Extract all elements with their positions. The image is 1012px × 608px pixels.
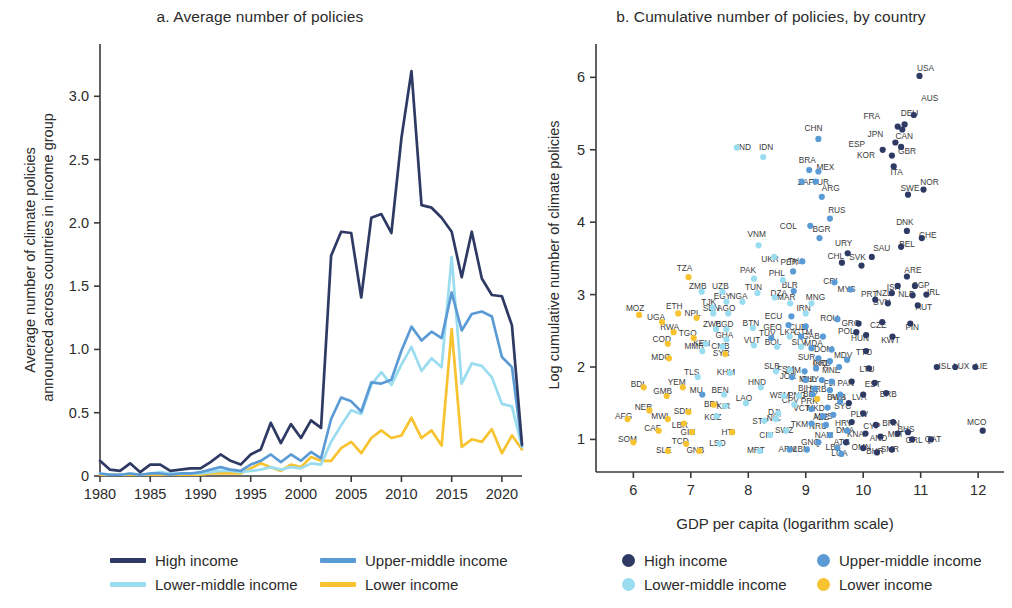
scatter-point	[869, 254, 875, 260]
scatter-point	[934, 364, 940, 370]
scatter-point	[810, 391, 816, 397]
country-label: SWE	[901, 183, 920, 193]
scatter-point	[803, 377, 809, 383]
scatter-point	[804, 447, 810, 453]
scatter-point	[723, 326, 729, 332]
country-label: SAU	[873, 243, 890, 253]
scatter-point	[787, 367, 793, 373]
legend-label: Lower income	[839, 577, 932, 592]
panel-a-y-tick-label: 0	[81, 468, 89, 484]
panel-a-x-tick-label: 2005	[335, 486, 367, 502]
panel-b-x-tick-label: 10	[855, 482, 871, 498]
scatter-point	[907, 321, 913, 327]
scatter-point	[710, 310, 716, 316]
legend-item-high-income: High income	[622, 553, 817, 568]
scatter-point	[739, 299, 745, 305]
scatter-point	[772, 294, 778, 300]
scatter-point	[827, 358, 833, 364]
scatter-point	[815, 168, 821, 174]
scatter-point	[788, 313, 794, 319]
scatter-point	[699, 289, 705, 295]
scatter-point	[874, 449, 880, 455]
scatter-point	[819, 194, 825, 200]
country-label: BRA	[799, 155, 817, 165]
scatter-point	[889, 447, 895, 453]
scatter-point	[787, 334, 793, 340]
panel-a-series-line	[100, 292, 522, 474]
scatter-point	[808, 300, 814, 306]
country-label: DNK	[896, 217, 914, 227]
scatter-point	[829, 378, 835, 384]
scatter-point	[803, 323, 809, 329]
scatter-point	[641, 384, 647, 390]
panel-b-x-tick-label: 11	[913, 482, 928, 498]
panel-a-series-line	[100, 257, 522, 475]
scatter-point	[814, 396, 820, 402]
legend-row: High incomeUpper-middle income	[622, 553, 1012, 568]
country-label: TZA	[677, 263, 693, 273]
legend-dot-swatch	[622, 578, 635, 591]
scatter-point	[856, 321, 862, 327]
scatter-point	[761, 418, 767, 424]
scatter-point	[891, 163, 897, 169]
panel-b-y-tick-label: 4	[577, 214, 585, 230]
legend-label: Lower income	[365, 577, 458, 592]
legend-label: Lower-middle income	[644, 577, 787, 592]
country-label: URY	[835, 238, 853, 248]
scatter-point	[768, 335, 774, 341]
scatter-point	[889, 334, 895, 340]
scatter-point	[843, 439, 849, 445]
panel-b-x-tick-label: 6	[629, 482, 637, 498]
scatter-point	[898, 144, 904, 150]
scatter-point	[972, 364, 978, 370]
scatter-point	[863, 332, 869, 338]
scatter-point	[831, 279, 837, 285]
scatter-point	[798, 344, 804, 350]
scatter-point	[909, 436, 915, 442]
scatter-point	[790, 268, 796, 274]
country-label: ETH	[666, 301, 683, 311]
panel-b-y-tick-label: 6	[577, 69, 585, 85]
scatter-point	[837, 391, 843, 397]
panel-a-average-policies: a. Average number of policies Average nu…	[0, 0, 530, 608]
legend-label: Lower-middle income	[155, 577, 298, 592]
scatter-point	[783, 428, 789, 434]
legend-row: High incomeUpper-middle income	[110, 553, 530, 568]
scatter-point	[980, 428, 986, 434]
legend-label: High income	[644, 553, 727, 568]
panel-b-x-tick-label: 7	[687, 482, 695, 498]
scatter-point	[837, 399, 843, 405]
country-label: ARG	[822, 183, 840, 193]
scatter-point	[767, 432, 773, 438]
scatter-point	[866, 365, 872, 371]
scatter-point	[807, 223, 813, 229]
scatter-point	[911, 112, 917, 118]
scatter-point	[920, 187, 926, 193]
scatter-point	[839, 260, 845, 266]
scatter-point	[919, 235, 925, 241]
scatter-point	[719, 344, 725, 350]
panel-a-x-tick-label: 2000	[285, 486, 317, 502]
panel-b-cumulative-policies: b. Cumulative number of policies, by cou…	[530, 0, 1012, 608]
scatter-point	[685, 409, 691, 415]
scatter-point	[873, 422, 879, 428]
scatter-point	[796, 393, 802, 399]
country-label: MDV	[834, 350, 853, 360]
scatter-point	[630, 439, 636, 445]
scatter-point	[721, 391, 727, 397]
scatter-point	[923, 292, 929, 298]
scatter-point	[646, 407, 652, 413]
country-label: CAN	[896, 131, 914, 141]
scatter-point	[703, 341, 709, 347]
scatter-point	[877, 433, 883, 439]
country-label: KOR	[857, 150, 875, 160]
panel-a-y-tick-label: 2.5	[69, 152, 89, 168]
scatter-point	[798, 334, 804, 340]
scatter-point	[815, 355, 821, 361]
scatter-point	[727, 370, 733, 376]
scatter-point	[756, 242, 762, 248]
scatter-point	[912, 283, 918, 289]
scatter-point	[710, 305, 716, 311]
scatter-point	[750, 325, 756, 331]
country-label: BGR	[813, 224, 831, 234]
